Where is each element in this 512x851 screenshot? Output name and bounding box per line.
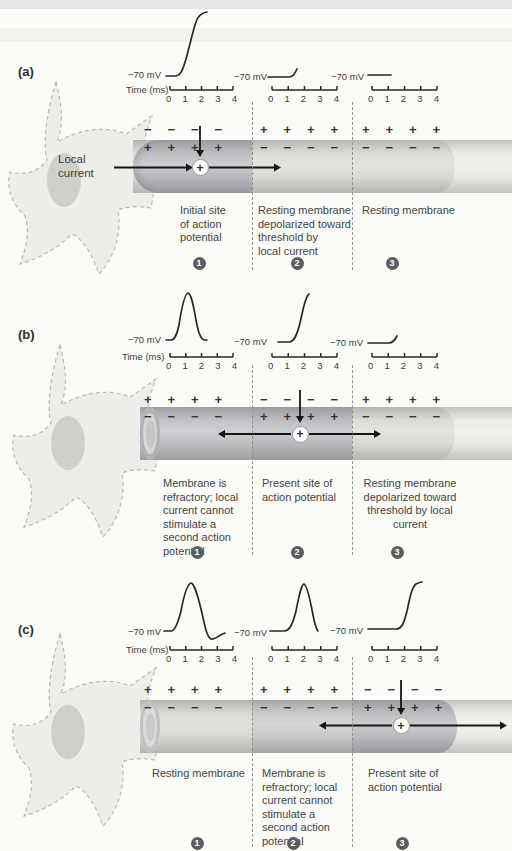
tick-label: 3 — [417, 653, 422, 664]
charge-symbol: − — [144, 411, 152, 423]
charge-symbol: − — [330, 702, 338, 714]
panel-a-letter: (a) — [18, 64, 34, 79]
charge-symbol: − — [144, 124, 152, 136]
charge-row-bottom-2: −−−− — [260, 702, 338, 714]
charge-row-bottom-3: −−−− — [362, 411, 440, 423]
tick-label: 2 — [199, 360, 204, 371]
step-badge-1: 1 — [191, 546, 204, 559]
charge-symbol: + — [307, 684, 315, 696]
tick-label: 2 — [301, 653, 306, 664]
charge-row-top-2: ++++ — [260, 124, 338, 136]
tick-labels-3: 01234 — [368, 360, 439, 371]
region-separator-1 — [252, 102, 253, 270]
charge-symbol: + — [385, 124, 393, 136]
tick-label: 1 — [284, 360, 289, 371]
axon-cut-end-inner-ring — [146, 713, 155, 741]
charge-symbol: − — [283, 702, 291, 714]
tick-label: 1 — [182, 653, 187, 664]
charge-symbol: + — [144, 684, 152, 696]
time-axis-3 — [372, 86, 437, 90]
charge-symbol: + — [167, 684, 175, 696]
tick-label: 2 — [301, 93, 306, 104]
charge-symbol: − — [191, 702, 199, 714]
tick-label: 4 — [232, 653, 237, 664]
tick-label: 2 — [401, 93, 406, 104]
tick-label: 3 — [317, 360, 322, 371]
charge-symbol: + — [387, 702, 395, 714]
charge-row-top-2: −−−− — [260, 394, 338, 406]
charge-symbol: + — [409, 394, 417, 406]
charge-symbol: + — [214, 142, 222, 154]
step-badge-1: 1 — [191, 837, 204, 850]
charge-row-top-3: −−−− — [364, 684, 442, 696]
mv-label-1: −70 mV — [128, 334, 161, 345]
tick-label: 0 — [166, 360, 171, 371]
charge-symbol: − — [191, 411, 199, 423]
tick-labels-2: 01234 — [268, 653, 339, 664]
region-separator-1 — [252, 365, 253, 555]
tick-label: 2 — [401, 360, 406, 371]
tick-label: 3 — [417, 93, 422, 104]
panel-a: (a) −−−− ++++ ++++ −−−− ++++ −−−− — [0, 0, 512, 285]
charge-symbol: + — [283, 684, 291, 696]
mv-label-2: −70 mV — [234, 71, 267, 82]
charge-symbol: − — [409, 142, 417, 154]
charge-symbol: + — [411, 702, 419, 714]
region-separator-2 — [352, 657, 353, 847]
tick-labels-1: 01234 — [166, 360, 237, 371]
tick-label: 4 — [232, 93, 237, 104]
charge-symbol: + — [191, 142, 199, 154]
charge-symbol: − — [385, 142, 393, 154]
mv-label-3: −70 mV — [330, 337, 363, 348]
region-separator-2 — [352, 102, 353, 270]
charge-symbol: − — [385, 411, 393, 423]
region-caption-2: Resting membrane depolarized toward thre… — [258, 204, 351, 258]
charge-symbol: − — [330, 394, 338, 406]
tick-label: 1 — [284, 93, 289, 104]
mv-label-2: −70 mV — [234, 336, 267, 347]
nucleus — [51, 705, 85, 759]
charge-symbol: + — [283, 124, 291, 136]
charge-symbol: + — [307, 124, 315, 136]
charge-row-top-3: ++++ — [362, 394, 440, 406]
charge-symbol: − — [167, 702, 175, 714]
charge-symbol: + — [362, 394, 370, 406]
charge-symbol: + — [214, 684, 222, 696]
region-caption-2: Membrane is refractory; local current ca… — [262, 767, 337, 848]
charge-symbol: − — [434, 684, 442, 696]
charge-symbol: + — [307, 411, 315, 423]
charge-symbol: + — [432, 394, 440, 406]
time-axis-1 — [170, 353, 233, 357]
charge-symbol: + — [191, 394, 199, 406]
charge-symbol: + — [434, 702, 442, 714]
charge-row-top-2: ++++ — [260, 684, 338, 696]
panel-b: (b) ++++ −−−− −−−− ++++ ++++ −−−− — [0, 285, 512, 562]
step-badge-3: 3 — [396, 837, 409, 850]
tick-label: 0 — [368, 93, 373, 104]
charge-symbol: − — [307, 394, 315, 406]
charge-symbol: + — [362, 124, 370, 136]
positive-charge-marker: + — [292, 426, 309, 443]
step-badge-2: 2 — [291, 257, 304, 270]
charge-symbol: + — [283, 411, 291, 423]
voltage-trace-1 — [166, 293, 207, 340]
charge-symbol: − — [307, 142, 315, 154]
mv-label-3: −70 mV — [331, 71, 364, 82]
tick-label: 0 — [368, 653, 373, 664]
tick-label: 0 — [166, 93, 171, 104]
charge-symbol: − — [214, 124, 222, 136]
charge-symbol: + — [330, 411, 338, 423]
time-axis-label: Time (ms) — [126, 644, 168, 655]
tick-label: 3 — [215, 360, 220, 371]
region-separator-2 — [352, 365, 353, 555]
charge-symbol: + — [260, 684, 268, 696]
charge-row-bottom-1: ++++ — [144, 142, 222, 154]
charge-symbol: + — [409, 124, 417, 136]
charge-symbol: + — [144, 142, 152, 154]
charge-symbol: + — [432, 124, 440, 136]
tick-labels-2: 01234 — [268, 360, 339, 371]
charge-symbol: + — [191, 684, 199, 696]
time-axis-label: Time (ms) — [122, 351, 164, 362]
tick-labels-1: 01234 — [166, 93, 237, 104]
figure-action-potential-propagation: (a) −−−− ++++ ++++ −−−− ++++ −−−− — [0, 0, 512, 851]
